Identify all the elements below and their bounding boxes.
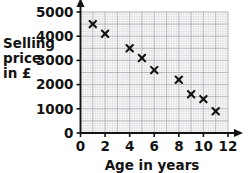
x-tick-label: 12 <box>219 138 238 154</box>
x-tick-label: 10 <box>194 138 213 154</box>
scatter-chart: 010002000300040005000 024681012 Selling … <box>0 0 248 173</box>
y-axis-title-line-3: in £ <box>3 65 31 81</box>
y-tick-label: 5000 <box>36 4 74 20</box>
x-tick-label: 0 <box>76 138 85 154</box>
x-tick-label: 6 <box>150 138 159 154</box>
chart-canvas: 010002000300040005000 024681012 Selling … <box>0 0 248 173</box>
x-tick-label: 8 <box>174 138 183 154</box>
y-tick-label: 3000 <box>36 52 74 68</box>
x-tick-label: 2 <box>100 138 109 154</box>
y-axis-title-line-2: price <box>3 50 41 66</box>
y-axis-title-line-1: Selling <box>3 35 55 51</box>
x-axis-title: Age in years <box>105 157 200 173</box>
x-tick-label: 4 <box>125 138 134 154</box>
y-tick-labels: 010002000300040005000 <box>36 4 74 141</box>
y-tick-label: 1000 <box>36 101 74 117</box>
x-tick-labels: 024681012 <box>76 138 238 154</box>
y-tick-label: 2000 <box>36 76 74 92</box>
y-tick-label: 0 <box>64 125 73 141</box>
